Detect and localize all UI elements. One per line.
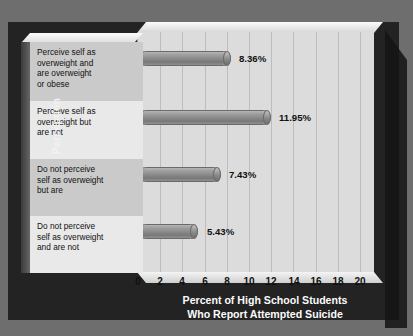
bar-label-1: 8.36% (239, 53, 266, 64)
x-tick-16: 16 (307, 276, 325, 287)
gridline-18 (338, 32, 339, 272)
category-label-3: Do not perceive self as overweight but a… (30, 159, 143, 216)
gridline-14 (293, 32, 294, 272)
gridline-6 (205, 32, 206, 272)
bar-4[interactable] (138, 224, 198, 239)
category-label-4: Do not perceive self as overweight and a… (30, 216, 143, 273)
x-tick-0: 0 (129, 276, 147, 287)
x-axis-title-line2: Who Report Attempted Suicide (137, 308, 393, 322)
bar-label-4: 5.43% (207, 226, 234, 237)
bar-2[interactable] (138, 110, 271, 125)
x-tick-14: 14 (285, 276, 303, 287)
category-label-4-line3: and are not (37, 242, 139, 253)
category-label-4-line2: self as overweight (37, 232, 139, 243)
bar-label-2: 11.95% (279, 112, 311, 123)
category-panel: Perceive self as overweight and are over… (21, 33, 143, 273)
x-tick-20: 20 (351, 276, 369, 287)
x-axis-title-line1: Percent of High School Students (137, 294, 393, 308)
panel-drop-shadow (385, 30, 407, 328)
x-tick-4: 4 (173, 276, 191, 287)
bar-1[interactable] (138, 51, 231, 66)
x-tick-10: 10 (240, 276, 258, 287)
x-tick-18: 18 (329, 276, 347, 287)
x-tick-12: 12 (262, 276, 280, 287)
x-axis-title: Percent of High School Students Who Repo… (137, 294, 393, 321)
category-label-1-line1: Perceive self as (37, 47, 139, 58)
gridline-10 (249, 32, 250, 272)
x-tick-6: 6 (196, 276, 214, 287)
y-axis-title: Perception (50, 66, 62, 186)
x-tick-8: 8 (218, 276, 236, 287)
category-label-2: Perceive self as overweight but are not (30, 101, 143, 159)
category-label-3-line3: but are (37, 185, 139, 196)
bar-label-3: 7.43% (229, 169, 256, 180)
bar-3[interactable] (138, 167, 221, 182)
gridline-20 (360, 32, 361, 272)
gridline-16 (316, 32, 317, 272)
category-label-4-line1: Do not perceive (37, 221, 139, 232)
category-face: Perceive self as overweight and are over… (30, 42, 143, 273)
category-label-1: Perceive self as overweight and are over… (30, 42, 143, 101)
gridline-12 (271, 32, 272, 272)
x-tick-2: 2 (151, 276, 169, 287)
chart-figure: 8.36% 11.95% 7.43% 5.43% Perceive self a… (0, 0, 413, 336)
